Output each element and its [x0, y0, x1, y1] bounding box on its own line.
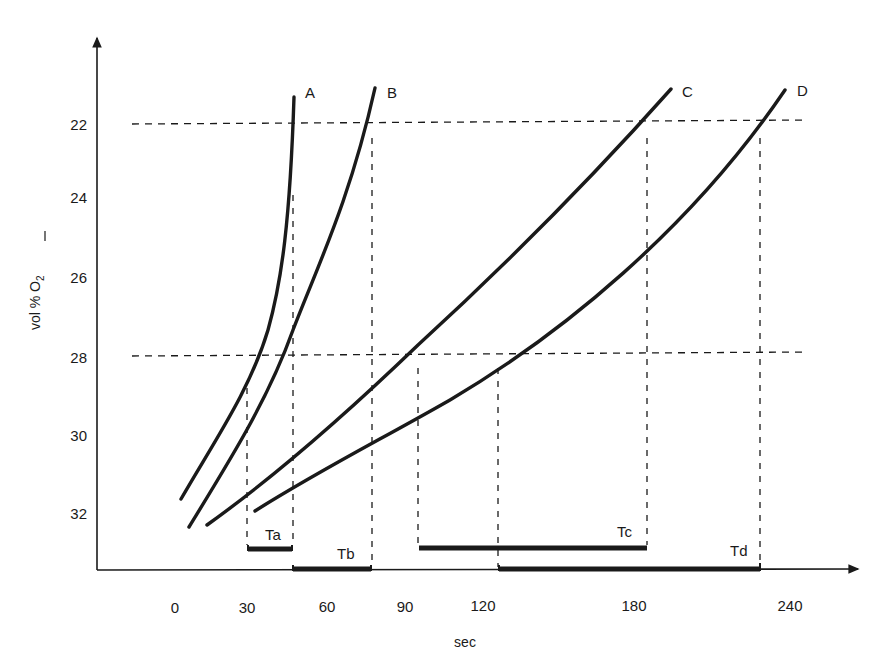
interval-bar-ta: [248, 545, 292, 551]
y-tick-26: 26: [70, 269, 87, 286]
x-tick-180: 180: [621, 597, 646, 614]
curve-d: [255, 90, 785, 511]
x-tick-120: 120: [470, 597, 495, 614]
y-axis-title: vol % O2: [27, 231, 46, 330]
x-axis-title: sec: [454, 634, 476, 650]
x-tick-0: 0: [171, 599, 179, 616]
interval-label-tc: Tc: [617, 523, 633, 540]
x-tick-90: 90: [397, 598, 414, 615]
svg-text:vol % O2: vol % O2: [27, 275, 46, 330]
interval-label-ta: Ta: [265, 526, 282, 543]
y-tick-32: 32: [70, 505, 87, 522]
curve-b: [189, 88, 375, 527]
clipped-caption-text: ▔ ▔▔ ▔▔ ▔ ▔▔ ▔ ▔▔ ▔▔▔ ▔ ▔ ▔▔ ▔ ▔▔▔ ▔ ▔▔ …: [0, 662, 893, 670]
x-tick-30: 30: [239, 599, 256, 616]
curve-a: [181, 97, 294, 499]
clipped-caption: ▔ ▔▔ ▔▔ ▔ ▔▔ ▔ ▔▔ ▔▔▔ ▔ ▔ ▔▔ ▔ ▔▔▔ ▔ ▔▔ …: [0, 662, 893, 670]
interval-bars: [248, 545, 760, 571]
ref-line-22: [132, 120, 808, 124]
curve-label-c: C: [682, 83, 693, 100]
y-axis-title-subscript: 2: [35, 275, 46, 281]
curve-label-b: B: [387, 84, 397, 101]
oxygen-time-chart: A B C D Ta Tb Tc Td 22 24 26 28 30 32 0 …: [0, 0, 893, 670]
y-tick-22: 22: [70, 116, 87, 133]
x-tick-labels: 0 30 60 90 120 180 240: [171, 597, 803, 616]
curves: [181, 88, 785, 527]
y-tick-labels: 22 24 26 28 30 32: [70, 116, 87, 522]
y-tick-30: 30: [70, 427, 87, 444]
y-tick-28: 28: [70, 349, 87, 366]
curve-label-d: D: [797, 82, 808, 99]
y-axis-title-main: vol % O: [27, 281, 43, 330]
x-tick-60: 60: [319, 598, 336, 615]
x-tick-240: 240: [777, 597, 802, 614]
y-tick-24: 24: [70, 189, 87, 206]
interval-bar-tb: [293, 565, 371, 571]
interval-label-tb: Tb: [337, 545, 355, 562]
ref-line-28: [132, 352, 808, 356]
interval-label-td: Td: [730, 542, 748, 559]
curve-label-a: A: [305, 84, 315, 101]
curve-c: [207, 89, 671, 525]
interval-bar-td: [499, 563, 760, 571]
horizontal-reference-lines: [132, 120, 808, 356]
